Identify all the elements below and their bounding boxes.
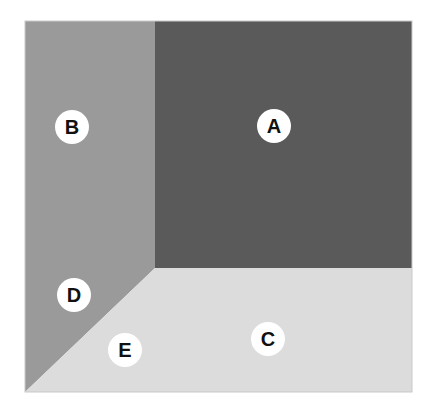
region-label-a: A <box>257 109 291 143</box>
region-label-b: B <box>55 110 89 144</box>
diagram-canvas: A B C D E <box>0 0 432 409</box>
region-label-c: C <box>251 322 285 356</box>
region-b-shape <box>25 21 155 268</box>
region-a-shape <box>155 21 412 268</box>
region-diagram <box>0 0 432 409</box>
region-label-d: D <box>57 278 91 312</box>
region-label-e: E <box>108 333 142 367</box>
